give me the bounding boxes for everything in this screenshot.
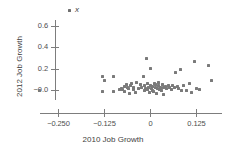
data-point	[179, 68, 182, 71]
data-point	[155, 92, 158, 95]
data-point	[182, 84, 185, 87]
data-point	[174, 71, 177, 74]
data-point	[190, 91, 193, 94]
data-point	[128, 92, 131, 95]
data-point	[127, 87, 130, 90]
data-point	[210, 79, 213, 82]
data-point	[162, 93, 165, 96]
data-point	[160, 89, 163, 92]
data-points-layer	[0, 0, 226, 149]
data-point	[130, 82, 133, 85]
data-point	[134, 91, 137, 94]
data-point	[142, 75, 145, 78]
data-point	[198, 88, 201, 91]
data-point	[148, 91, 151, 94]
data-point	[101, 75, 104, 78]
data-point	[38, 89, 41, 92]
data-point	[185, 89, 188, 92]
data-point	[112, 90, 115, 93]
plot-area: 0.6 0.4 0.2 −0.0 −0.250 −0.125 0 0.125 2…	[0, 0, 226, 149]
data-point	[188, 82, 191, 85]
data-point	[180, 89, 183, 92]
scatter-chart: 0.6 0.4 0.2 −0.0 −0.250 −0.125 0 0.125 2…	[0, 0, 226, 149]
data-point	[123, 90, 126, 93]
data-point	[135, 81, 138, 84]
data-point	[193, 60, 196, 63]
data-point	[157, 81, 160, 84]
data-point	[145, 57, 148, 60]
data-point	[103, 79, 106, 82]
data-point	[112, 75, 115, 78]
data-point	[149, 67, 152, 70]
data-point	[207, 64, 210, 67]
data-point	[101, 90, 104, 93]
